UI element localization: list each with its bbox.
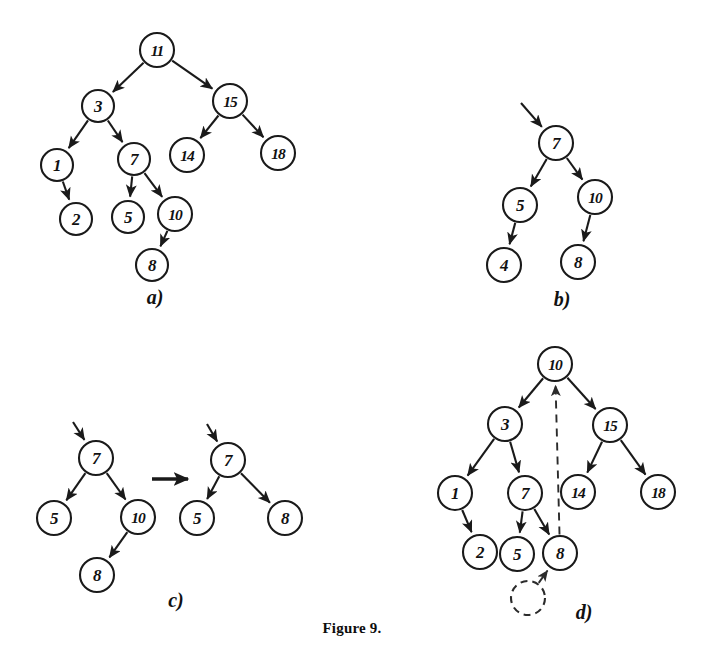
node-value-label: 14 xyxy=(180,147,195,164)
tree-node-d18: 18 xyxy=(641,475,675,509)
tree-edge-a11-to-a3 xyxy=(113,63,144,92)
node-value-label: 10 xyxy=(168,206,183,223)
tree-node-a14: 14 xyxy=(170,138,204,172)
tree-node-a11: 11 xyxy=(140,33,174,67)
tree-edge-c7b-to-c5b xyxy=(207,476,219,499)
incoming-pointer-arrow-b-0 xyxy=(521,103,542,127)
node-value-label: 8 xyxy=(148,256,157,275)
tree-edge-a3-to-a7 xyxy=(108,120,123,142)
tree-node-a18: 18 xyxy=(261,136,295,170)
incoming-pointer-arrow-c-0 xyxy=(73,422,84,440)
node-value-label: 5 xyxy=(516,196,525,215)
tree-diagram-canvas: 1131517141825108751048751087581031517141… xyxy=(0,0,704,656)
node-value-label: 10 xyxy=(548,356,563,373)
incoming-pointer-arrow-c-1 xyxy=(207,424,217,441)
tree-edge-d10-to-d3 xyxy=(519,378,543,407)
tree-edge-c7b-to-c8b xyxy=(241,473,270,502)
node-value-label: 3 xyxy=(500,415,510,434)
tree-edge-d7-to-d8 xyxy=(534,509,549,534)
tree-node-c8: 8 xyxy=(80,558,114,592)
tree-node-b10: 10 xyxy=(578,180,612,214)
node-value-label: 10 xyxy=(131,509,146,526)
tree-node-c5b: 5 xyxy=(180,501,214,535)
tree-node-d1: 1 xyxy=(438,476,472,510)
panel-label-a: a) xyxy=(147,286,164,309)
tree-edge-b7-to-b10 xyxy=(567,158,583,180)
node-value-label: 11 xyxy=(151,42,164,59)
tree-edge-a11-to-a15 xyxy=(172,61,212,89)
tree-edge-a7-to-a10 xyxy=(144,173,162,197)
node-value-label: 8 xyxy=(93,566,102,585)
tree-edge-c10-to-c8 xyxy=(109,532,127,557)
tree-edge-a15-to-a14 xyxy=(200,115,218,138)
node-value-label: 5 xyxy=(193,509,202,528)
figure-9-illustration: 1131517141825108751048751087581031517141… xyxy=(0,0,704,656)
node-value-label: 5 xyxy=(513,545,522,564)
panel-label-c: c) xyxy=(168,589,184,612)
node-value-label: 15 xyxy=(603,417,618,434)
tree-edge-c7-to-c10 xyxy=(107,473,126,499)
node-value-label: 5 xyxy=(50,509,59,528)
node-value-label: 10 xyxy=(588,189,603,206)
node-value-label: 3 xyxy=(93,97,103,116)
tree-edge-d7-to-d5 xyxy=(520,511,523,532)
tree-edge-a10-to-a8 xyxy=(160,231,167,246)
tree-node-a1: 1 xyxy=(41,149,73,181)
tree-edge-d1-to-d2 xyxy=(462,510,471,532)
tree-edge-d8-to-d10 xyxy=(556,385,560,534)
tree-node-a10: 10 xyxy=(158,197,192,231)
tree-node-d15: 15 xyxy=(593,408,627,442)
tree-node-a15: 15 xyxy=(213,84,247,118)
node-value-label: 1 xyxy=(451,484,459,503)
tree-node-c10: 10 xyxy=(121,500,155,534)
tree-node-c8b: 8 xyxy=(268,501,302,535)
tree-edge-b10-to-b8 xyxy=(583,215,590,241)
nodes-layer: 1131517141825108751048751087581031517141… xyxy=(37,33,675,615)
tree-node-a5: 5 xyxy=(112,201,144,233)
tree-edge-a3-to-a1 xyxy=(69,120,88,148)
tree-node-c5: 5 xyxy=(37,501,71,535)
tree-node-d3: 3 xyxy=(488,407,522,441)
node-value-label: 18 xyxy=(271,145,286,162)
tree-node-dghost xyxy=(511,581,545,615)
tree-node-d8: 8 xyxy=(543,536,577,570)
tree-edge-d15-to-d18 xyxy=(621,440,646,474)
tree-node-c7b: 7 xyxy=(211,443,245,477)
tree-edge-d3-to-d7 xyxy=(510,442,519,473)
tree-edge-dghost-to-d8 xyxy=(539,571,548,583)
node-value-label: 4 xyxy=(499,256,508,275)
node-value-label: 15 xyxy=(223,93,238,110)
tree-node-c7: 7 xyxy=(79,441,113,475)
node-value-label: 8 xyxy=(556,544,565,563)
tree-edge-b7-to-b5 xyxy=(531,159,547,186)
node-value-label: 2 xyxy=(475,543,485,562)
tree-node-a8: 8 xyxy=(136,249,168,281)
node-value-label: 5 xyxy=(124,208,133,227)
node-value-label: 18 xyxy=(651,484,666,501)
node-value-label: 8 xyxy=(574,253,583,272)
tree-node-b4: 4 xyxy=(487,248,521,282)
node-value-label: 14 xyxy=(571,484,586,501)
tree-node-d7: 7 xyxy=(508,476,542,510)
tree-node-b7: 7 xyxy=(539,126,573,160)
node-value-label: 2 xyxy=(71,210,81,229)
tree-node-a3: 3 xyxy=(82,90,114,122)
tree-edge-d10-to-d15 xyxy=(567,378,595,409)
tree-edge-d15-to-d14 xyxy=(587,442,602,473)
tree-node-d5: 5 xyxy=(500,537,534,571)
tree-edge-a1-to-a2 xyxy=(63,182,69,200)
panel-label-b: b) xyxy=(554,288,571,311)
tree-node-b8: 8 xyxy=(561,245,595,279)
tree-node-d10: 10 xyxy=(538,347,572,381)
figure-caption: Figure 9. xyxy=(0,620,704,637)
tree-node-a7: 7 xyxy=(118,143,150,175)
node-value-label: 8 xyxy=(281,509,290,528)
tree-node-b5: 5 xyxy=(503,188,537,222)
tree-node-d14: 14 xyxy=(561,475,595,509)
tree-node-a2: 2 xyxy=(60,203,92,235)
tree-edge-a15-to-a18 xyxy=(243,115,264,138)
tree-node-d2: 2 xyxy=(463,535,497,569)
deleted-node-placeholder-circle xyxy=(511,581,545,615)
tree-edge-c7-to-c5 xyxy=(66,473,85,500)
tree-edge-d3-to-d1 xyxy=(468,439,495,476)
